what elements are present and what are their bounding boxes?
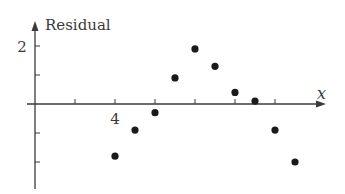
data-point — [131, 127, 138, 134]
data-point — [171, 74, 178, 81]
data-point — [251, 98, 258, 105]
data-point — [111, 153, 118, 160]
data-point — [151, 109, 158, 116]
data-point — [191, 45, 198, 52]
y-axis-arrow-icon — [32, 21, 39, 31]
data-point — [211, 63, 218, 70]
data-points — [111, 45, 298, 165]
data-point — [271, 127, 278, 134]
x-axis-label: x — [317, 84, 326, 103]
y-tick-label-2: 2 — [17, 38, 27, 56]
data-point — [291, 158, 298, 165]
y-axis-label: Residual — [45, 16, 111, 34]
residual-plot: Residual x 2 4 — [0, 0, 345, 194]
axes — [27, 21, 326, 189]
x-tick-label-4: 4 — [110, 110, 120, 128]
data-point — [231, 89, 238, 96]
